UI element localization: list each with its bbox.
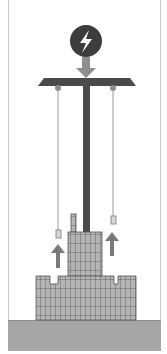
block-stack-base — [36, 276, 136, 320]
pillar — [83, 86, 90, 232]
arrow-up-icon — [51, 244, 65, 268]
block-stack-center — [68, 232, 102, 276]
diagram-canvas — [0, 0, 167, 354]
block-bump — [71, 214, 76, 232]
counterweight-right — [111, 216, 116, 224]
counterweight-left — [56, 230, 61, 238]
arrow-down-icon — [76, 57, 96, 78]
energy-source — [70, 25, 102, 57]
arrow-up-icon — [105, 232, 119, 256]
platform — [38, 78, 136, 86]
